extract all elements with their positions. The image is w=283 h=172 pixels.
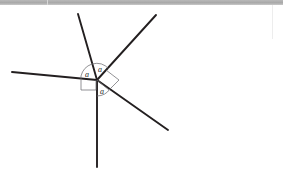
angle-diagram: a a a [0,0,283,172]
angle-label-left: a [85,70,89,79]
geometry-figure-canvas: a a a [0,0,283,172]
ray-lower-right [97,80,168,130]
angle-label-top: a [98,65,102,74]
angle-label-lower: a [100,87,104,96]
